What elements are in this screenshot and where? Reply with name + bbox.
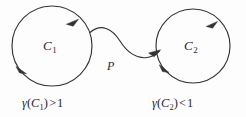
c1-top-arrow-icon xyxy=(66,19,78,26)
cycle-c1-condition: γ(C1)>1 xyxy=(22,97,63,110)
c2-condition-relation: < xyxy=(178,96,187,110)
cycle-c2-condition: γ(C2)<1 xyxy=(152,97,193,110)
c1-condition-sub: 1 xyxy=(39,102,43,112)
c1-bottom-arrow-icon xyxy=(16,67,27,74)
c2-bottom-arrow-icon xyxy=(159,65,169,73)
cycle-c2-label-sub: 2 xyxy=(193,45,198,55)
figure-canvas: C1 C2 P γ(C1)>1 γ(C2)<1 xyxy=(0,0,246,117)
cycle-c1-label-base: C xyxy=(43,38,52,53)
c2-condition-sub: 2 xyxy=(169,102,173,112)
cycle-c1-label: C1 xyxy=(43,39,56,52)
c1-condition-value: 1 xyxy=(57,96,63,110)
connector-label-p: P xyxy=(107,60,114,72)
connector-arrow-icon xyxy=(149,50,161,57)
c1-condition-relation: > xyxy=(48,96,57,110)
c2-top-arrow-icon xyxy=(206,22,217,29)
c2-condition-value: 1 xyxy=(187,96,193,110)
cycle-c2-label: C2 xyxy=(184,39,197,52)
cycle-c2-label-base: C xyxy=(184,38,193,53)
cycle-c1-label-sub: 1 xyxy=(52,45,57,55)
